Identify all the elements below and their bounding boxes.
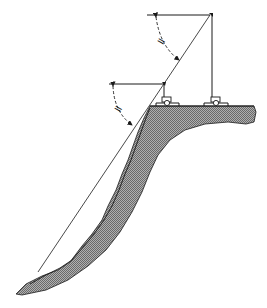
lower-reference [109, 82, 166, 97]
lower-instrument-icon [156, 97, 179, 106]
sight-line [38, 15, 210, 272]
diagram-canvas: = = [0, 0, 267, 308]
upper-angle-indicator: = [154, 17, 179, 60]
lower-angle-indicator: = [111, 86, 132, 125]
ground-mass [16, 106, 256, 295]
lower-angle-mark: = [111, 101, 125, 117]
upper-instrument-icon [204, 97, 228, 106]
